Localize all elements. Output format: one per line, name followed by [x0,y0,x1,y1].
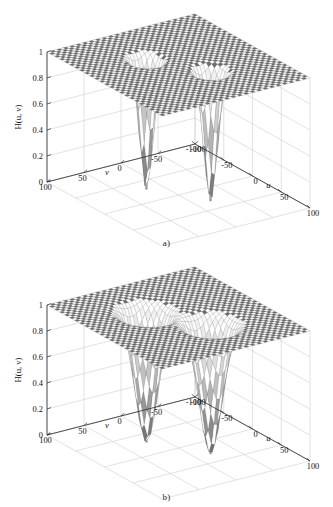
svg-text:0: 0 [253,430,257,439]
svg-text:-100: -100 [190,145,205,154]
svg-text:0: 0 [117,417,121,426]
surface-plot-b: 00.20.40.60.81100500-50-100-100-50050100… [0,253,333,506]
svg-text:50: 50 [280,446,288,455]
caption-b: b) [0,492,333,502]
svg-text:50: 50 [78,427,86,436]
svg-text:100: 100 [307,462,320,471]
svg-text:-50: -50 [221,414,232,423]
svg-text:0.6: 0.6 [33,100,43,109]
svg-text:0.2: 0.2 [33,405,43,414]
figure-panel-b: 00.20.40.60.81100500-50-100-100-50050100… [0,253,333,506]
svg-text:0.6: 0.6 [33,353,43,362]
svg-text:-50: -50 [221,161,232,170]
svg-text:-100: -100 [190,398,205,407]
z-axis-label: H(u, v) [13,104,23,129]
svg-text:0.4: 0.4 [33,126,44,135]
surface-plot-a-canvas: 00.20.40.60.81100500-50-100-100-50050100… [0,0,333,253]
svg-text:1: 1 [39,301,43,310]
svg-text:0.8: 0.8 [33,327,43,336]
svg-text:1: 1 [39,48,43,57]
svg-text:100: 100 [39,183,52,192]
svg-text:100: 100 [39,436,52,445]
svg-text:0.8: 0.8 [33,74,43,83]
v-axis-label: v [105,420,109,430]
svg-text:0: 0 [253,177,257,186]
svg-text:-50: -50 [151,408,162,417]
v-axis-label: v [105,167,109,177]
svg-text:0.2: 0.2 [33,152,43,161]
svg-text:50: 50 [78,174,86,183]
svg-text:-50: -50 [151,155,162,164]
svg-text:0.4: 0.4 [33,379,44,388]
caption-a: a) [0,238,333,248]
svg-text:0: 0 [117,164,121,173]
surface-plot-a: 00.20.40.60.81100500-50-100-100-50050100… [0,0,333,253]
surface-plot-b-canvas: 00.20.40.60.81100500-50-100-100-50050100… [0,253,333,506]
svg-text:100: 100 [307,209,320,218]
svg-text:50: 50 [280,193,288,202]
z-axis-label: H(u, v) [13,357,23,382]
u-axis-label: u [266,433,270,443]
figure-panel-a: 00.20.40.60.81100500-50-100-100-50050100… [0,0,333,253]
u-axis-label: u [266,180,270,190]
